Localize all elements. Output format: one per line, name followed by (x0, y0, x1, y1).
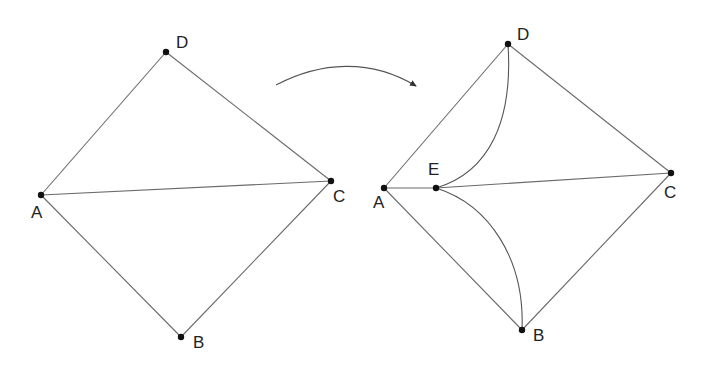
right-edge-EC (436, 173, 671, 188)
left-edge-AB (41, 195, 181, 337)
left-edge-BC (181, 181, 331, 337)
right-vertex-A (381, 185, 387, 191)
left-label-D: D (176, 33, 188, 52)
left-label-A: A (31, 203, 43, 222)
right-curved-edge-ED (436, 44, 509, 188)
right-vertex-D (505, 41, 511, 47)
left-vertex-C (328, 178, 334, 184)
left-edge-AC (41, 181, 331, 195)
left-vertex-A (38, 192, 44, 198)
left-label-C: C (333, 187, 345, 206)
right-label-D: D (517, 25, 529, 44)
right-vertex-E (433, 185, 439, 191)
right-vertex-C (668, 170, 674, 176)
left-graph: ADCB (31, 33, 345, 352)
right-label-E: E (428, 160, 439, 179)
graph-transformation-diagram: ADCB AEDCB (0, 0, 710, 371)
right-graph: AEDCB (373, 25, 676, 345)
right-edge-AD (384, 44, 508, 188)
left-edge-AD (41, 52, 166, 195)
right-curved-edge-EB (436, 188, 522, 330)
right-edge-DC (508, 44, 671, 173)
left-edge-DC (166, 52, 331, 181)
right-vertex-B (519, 327, 525, 333)
right-edge-AB (384, 188, 522, 330)
left-label-B: B (193, 333, 204, 352)
right-edge-BC (522, 173, 671, 330)
left-vertex-B (178, 334, 184, 340)
left-vertex-D (163, 49, 169, 55)
right-label-A: A (373, 193, 385, 212)
transform-arrow (276, 66, 416, 86)
right-label-B: B (533, 326, 544, 345)
right-label-C: C (664, 183, 676, 202)
